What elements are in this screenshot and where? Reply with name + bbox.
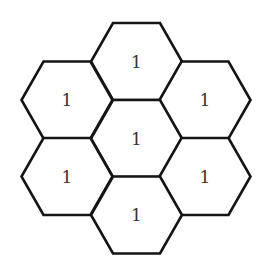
cell-label: 1 bbox=[62, 90, 73, 110]
cell-label: 1 bbox=[200, 90, 211, 110]
hexagon-diagram: 1 1 1 1 1 1 1 bbox=[0, 0, 262, 271]
cell-label: 1 bbox=[131, 129, 142, 149]
cell-label: 1 bbox=[131, 205, 142, 225]
cell-label: 1 bbox=[131, 52, 142, 72]
cell-label: 1 bbox=[200, 167, 211, 187]
cell-label: 1 bbox=[62, 167, 73, 187]
